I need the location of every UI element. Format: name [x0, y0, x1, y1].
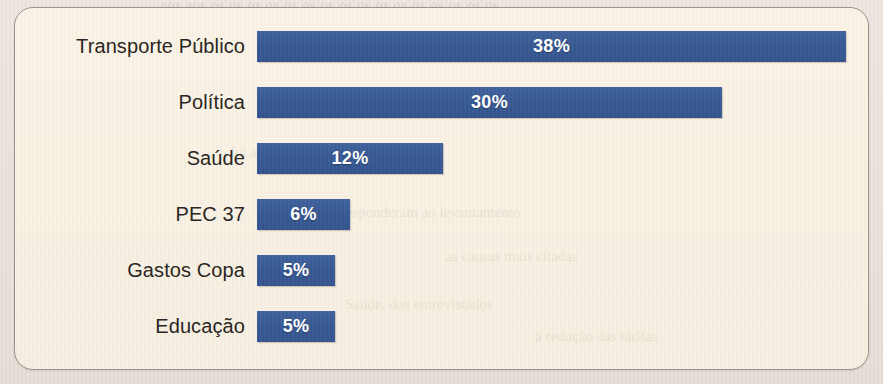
bar-track: 6% — [257, 199, 350, 230]
bar-value-label: 6% — [257, 199, 350, 230]
bar-value-label: 5% — [257, 255, 335, 286]
bar-track: 5% — [257, 311, 335, 342]
category-label: Política — [179, 87, 245, 118]
bar-track: 38% — [257, 31, 846, 62]
bar-value-label: 30% — [257, 87, 722, 118]
bar-row: PEC 37 6% — [15, 199, 869, 230]
bar-row: Política 30% — [15, 87, 869, 118]
category-label: Gastos Copa — [127, 255, 245, 286]
bar[interactable]: 5% — [257, 311, 335, 342]
bar-track: 12% — [257, 143, 443, 174]
bar[interactable]: 38% — [257, 31, 846, 62]
bar[interactable]: 12% — [257, 143, 443, 174]
category-label: Saúde — [187, 143, 245, 174]
bar-row: Educação 5% — [15, 311, 869, 342]
plot-area: Transporte Público 38% Política 30% — [15, 8, 869, 370]
bar-row: Saúde 12% — [15, 143, 869, 174]
bar-track: 30% — [257, 87, 722, 118]
bar-track: 5% — [257, 255, 335, 286]
bar[interactable]: 6% — [257, 199, 350, 230]
category-label: Educação — [155, 311, 245, 342]
bar-value-label: 12% — [257, 143, 443, 174]
bar-value-label: 5% — [257, 311, 335, 342]
bar-chart-panel: foi a mais citada pelos que responderam … — [14, 7, 869, 370]
bar-row: Gastos Copa 5% — [15, 255, 869, 286]
bar[interactable]: 30% — [257, 87, 722, 118]
bar[interactable]: 5% — [257, 255, 335, 286]
bar-value-label: 38% — [257, 31, 846, 62]
category-label: Transporte Público — [76, 31, 245, 62]
page-canvas: aos aos os os os os os os os os os os os… — [0, 0, 883, 384]
category-label: PEC 37 — [175, 199, 245, 230]
bar-row: Transporte Público 38% — [15, 31, 869, 62]
